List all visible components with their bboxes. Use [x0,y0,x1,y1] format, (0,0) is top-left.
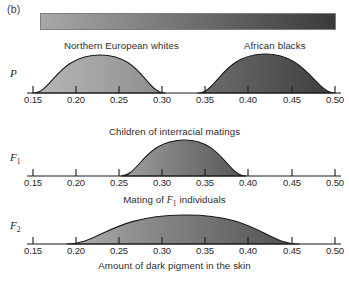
ticklabel: 0.50 [326,177,344,188]
ticklabel: 0.25 [110,177,128,188]
ticklabel: 0.35 [196,94,214,105]
ticklabel: 0.35 [196,245,214,256]
curve-f1 [121,140,246,176]
ticklabel: 0.50 [326,94,344,105]
ticklabel: 0.20 [67,245,85,256]
panel-f2-generation: Mating of F1 individuals F2 [0,194,349,256]
ticklabel: 0.25 [110,245,128,256]
f1-axis-ticklabels: 0.15 0.20 0.25 0.30 0.35 0.40 0.45 0.50 [0,177,349,191]
ticklabel: 0.15 [24,94,42,105]
ticklabel: 0.15 [24,245,42,256]
ticklabel: 0.30 [153,94,171,105]
ticklabel: 0.50 [326,245,344,256]
ticklabel: 0.15 [24,177,42,188]
ticklabel: 0.45 [283,94,301,105]
pigment-gradient-bar [40,13,336,30]
figure-panel-b: (b) Northern European whites African bla… [0,0,349,281]
ticklabel: 0.25 [110,94,128,105]
ticklabel: 0.40 [239,94,257,105]
p-axis-ticklabels: 0.15 0.20 0.25 0.30 0.35 0.40 0.45 0.50 [0,94,349,108]
ticklabel: 0.20 [67,177,85,188]
ticklabel: 0.30 [153,177,171,188]
curve-f2 [67,215,299,244]
ticklabel: 0.45 [283,245,301,256]
ticklabel: 0.40 [239,177,257,188]
f2-axis-ticklabels: 0.15 0.20 0.25 0.30 0.35 0.40 0.45 0.50 [0,245,349,259]
ticklabel: 0.30 [153,245,171,256]
x-axis-caption: Amount of dark pigment in the skin [0,260,349,271]
panel-letter: (b) [7,3,20,15]
ticklabel: 0.35 [196,177,214,188]
ticklabel: 0.45 [283,177,301,188]
ticklabel: 0.40 [239,245,257,256]
panel-f1-generation: Children of interracial matings F1 [0,126,349,188]
ticklabel: 0.20 [67,94,85,105]
curve-african-blacks [198,54,335,93]
p-generation-curves [0,40,349,102]
curve-northern-european-whites [33,55,165,93]
panel-p-generation: Northern European whites African blacks … [0,40,349,102]
